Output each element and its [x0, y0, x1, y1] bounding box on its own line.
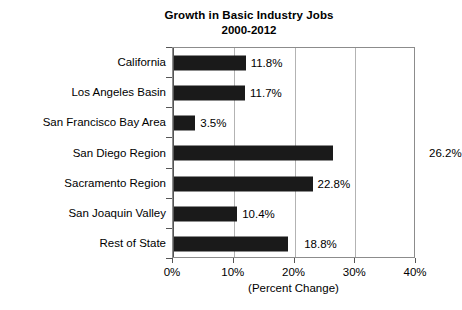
x-axis-tick-label: 10%: [221, 266, 244, 278]
x-axis-tick: [415, 258, 416, 263]
bar-value-label: 11.7%: [250, 87, 282, 99]
category-label: San Diego Region: [0, 147, 166, 159]
bar-row: 11.7%: [173, 78, 414, 108]
bar-row: 3.5%: [173, 108, 414, 138]
x-axis-tick-label: 30%: [343, 266, 366, 278]
bar-value-label: 26.2%: [429, 147, 462, 159]
bar-value-label: 10.4%: [242, 208, 275, 220]
bar-value-label: 3.5%: [200, 117, 226, 129]
x-axis-tick-label: 40%: [403, 266, 426, 278]
bar-value-label: 11.8%: [251, 57, 283, 69]
x-axis-title: (Percent Change): [172, 282, 415, 294]
category-label: San Joaquin Valley: [0, 207, 166, 219]
bar-value-label: 18.8%: [304, 238, 337, 250]
bar: [174, 86, 245, 101]
plot-area: 11.8%11.7%3.5%22.8%10.4%18.8%: [172, 47, 415, 258]
bar-row: 11.8%: [173, 48, 414, 78]
bar: [174, 206, 237, 221]
bar: [174, 56, 246, 71]
x-axis-tick: [354, 258, 355, 263]
x-axis-tick-label: 20%: [282, 266, 305, 278]
bar: [174, 176, 313, 191]
category-label: California: [0, 56, 166, 68]
x-axis-tick: [172, 258, 173, 263]
bar-row: 18.8%: [173, 229, 414, 259]
chart-title: Growth in Basic Industry Jobs: [0, 8, 452, 23]
bar-row: [173, 138, 414, 168]
bar-row: 22.8%: [173, 169, 414, 199]
x-axis-tick-label: 0%: [164, 266, 181, 278]
category-label: Los Angeles Basin: [0, 86, 166, 98]
x-axis-tick: [294, 258, 295, 263]
bar-value-label: 22.8%: [318, 178, 351, 190]
category-label: San Francisco Bay Area: [0, 116, 166, 128]
x-axis-tick: [233, 258, 234, 263]
category-label: Rest of State: [0, 237, 166, 249]
bar: [174, 116, 195, 131]
bar: [174, 146, 333, 161]
category-label: Sacramento Region: [0, 177, 166, 189]
bar: [174, 236, 288, 251]
chart-title-block: Growth in Basic Industry Jobs 2000-2012: [0, 8, 452, 38]
bar-row: 10.4%: [173, 199, 414, 229]
chart-subtitle: 2000-2012: [0, 23, 452, 38]
